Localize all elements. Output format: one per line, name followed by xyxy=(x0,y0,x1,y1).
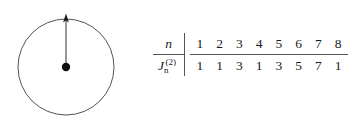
data-cell-7: 7 xyxy=(309,55,329,77)
header-cell-3: 3 xyxy=(230,33,250,55)
variable-n-label: n xyxy=(165,36,172,51)
data-cell-5: 3 xyxy=(269,55,289,77)
header-cell-5: 5 xyxy=(269,33,289,55)
data-row-label: Jn(2) xyxy=(153,55,185,77)
figure-container: n 1 2 3 4 5 6 7 8 Jn(2) 1 xyxy=(0,0,350,124)
data-cell-6: 5 xyxy=(289,55,309,77)
header-cell-8: 8 xyxy=(328,33,348,55)
header-row-label: n xyxy=(153,33,185,55)
data-cell-3: 3 xyxy=(230,55,250,77)
header-cell-6: 6 xyxy=(289,33,309,55)
header-cell-2: 2 xyxy=(210,33,230,55)
j-superscript: (2) xyxy=(166,57,177,67)
table-data-row: Jn(2) 1 1 3 1 3 5 7 1 xyxy=(153,55,348,77)
data-cell-8: 1 xyxy=(328,55,348,77)
circle-diagram xyxy=(0,0,140,124)
data-cell-4: 1 xyxy=(249,55,269,77)
table-header-row: n 1 2 3 4 5 6 7 8 xyxy=(153,33,348,55)
header-cell-7: 7 xyxy=(309,33,329,55)
data-cell-1: 1 xyxy=(190,55,210,77)
j-notation-label: Jn(2) xyxy=(158,59,179,73)
j-values-table: n 1 2 3 4 5 6 7 8 Jn(2) 1 xyxy=(153,33,348,76)
center-dot-icon xyxy=(62,63,70,71)
data-cell-2: 1 xyxy=(210,55,230,77)
value-table: n 1 2 3 4 5 6 7 8 Jn(2) 1 xyxy=(153,33,350,83)
header-cell-4: 4 xyxy=(249,33,269,55)
header-cell-1: 1 xyxy=(190,33,210,55)
circle-diagram-svg xyxy=(0,0,140,124)
